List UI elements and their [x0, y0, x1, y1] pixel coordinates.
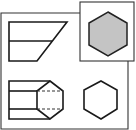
highlighted-option-box[interactable]: [80, 2, 134, 61]
plan-view-prism: [9, 81, 63, 119]
side-view-hexagon: [84, 81, 117, 119]
front-view-trapezoid: [9, 22, 67, 61]
filled-hexagon: [89, 12, 127, 56]
